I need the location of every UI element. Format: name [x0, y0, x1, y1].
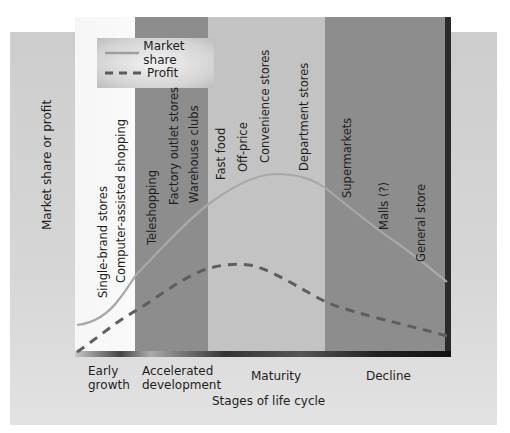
stage-label-accel-line1: Accelerated — [142, 364, 221, 378]
stage-label-early-line1: Early — [88, 364, 130, 378]
dashed-line-icon — [105, 70, 143, 76]
label-supermarkets: Supermarkets — [340, 118, 354, 198]
label-off-price: Off-price — [236, 122, 250, 172]
profit-curve — [77, 264, 447, 352]
legend: Market share Profit — [97, 38, 214, 88]
stage-label-accelerated-development: Accelerated development — [142, 364, 221, 392]
legend-item-market-share: Market share — [105, 44, 214, 62]
label-warehouse-clubs: Warehouse clubs — [187, 105, 201, 203]
market-share-curve — [77, 174, 447, 325]
label-fast-food: Fast food — [214, 128, 228, 180]
label-factory-outlet-stores: Factory outlet stores — [167, 87, 181, 205]
stage-label-early-line2: growth — [88, 378, 130, 392]
stage-label-decline: Decline — [366, 369, 411, 383]
label-convenience-stores: Convenience stores — [258, 50, 272, 163]
solid-line-icon — [105, 50, 139, 56]
stage-label-early-growth: Early growth — [88, 364, 130, 392]
label-teleshopping: Teleshopping — [145, 170, 159, 245]
legend-label-market-share: Market share — [143, 39, 214, 67]
label-general-store: General store — [414, 184, 428, 262]
label-computer-assisted-shopping: Computer-assisted shopping — [114, 119, 128, 283]
stage-label-accel-line2: development — [142, 378, 221, 392]
label-malls: Malls (?) — [377, 182, 391, 230]
y-axis-label: Market share or profit — [40, 100, 54, 230]
x-axis-label: Stages of life cycle — [0, 394, 510, 408]
legend-item-profit: Profit — [105, 64, 178, 82]
legend-label-profit: Profit — [147, 66, 178, 80]
label-single-brand-stores: Single-brand stores — [96, 186, 110, 298]
stage-label-maturity: Maturity — [251, 369, 301, 383]
label-department-stores: Department stores — [297, 63, 311, 171]
